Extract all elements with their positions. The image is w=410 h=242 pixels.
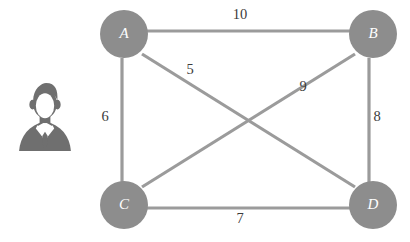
node-b-label: B: [368, 25, 377, 41]
weighted-graph-diagram: A B C D 10 6 5 9 8 7: [0, 0, 410, 242]
edge-weight-a-d: 5: [186, 61, 193, 77]
graph-canvas: A B C D 10 6 5 9 8 7: [0, 0, 410, 242]
edge-weight-a-b: 10: [233, 6, 248, 22]
edge-weight-b-c: 9: [299, 78, 306, 94]
node-d-label: D: [367, 196, 379, 212]
edge-group: [122, 31, 369, 208]
node-c-label: C: [119, 196, 130, 212]
node-a-label: A: [118, 25, 129, 41]
businessman-avatar-icon: [19, 83, 71, 151]
edge-weight-a-c: 6: [101, 108, 108, 124]
edge-weight-b-d: 8: [373, 108, 380, 124]
edge-weight-c-d: 7: [236, 210, 243, 226]
